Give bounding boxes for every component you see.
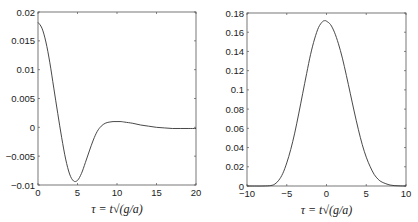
y-tick-label: 0 [239,181,244,192]
x-tick-label: 20 [191,187,202,198]
y-tick-label: 0.1 [231,84,244,95]
y-tick-label: 0.015 [11,35,35,46]
x-tick-label: 10 [112,187,123,198]
x-tick-label: 0 [324,188,329,199]
x-axis-label: τ = t√(g/a) [91,202,143,216]
axes-box [38,12,196,185]
y-tick-label: 0 [30,122,35,133]
y-tick-label: 0.08 [226,104,245,115]
figure: 05101520−0.01−0.00500.0050.010.0150.02τ … [0,0,418,222]
y-tick-label: −0.01 [11,180,35,191]
y-tick-label: 0.02 [17,7,36,18]
series-line-right-curve [247,21,406,186]
y-tick-label: 0.18 [226,8,245,19]
y-tick-label: −0.005 [6,151,35,162]
y-tick-label: 0.14 [226,46,245,57]
axes-box [247,13,406,186]
x-tick-label: 0 [35,187,40,198]
x-tick-label: 10 [401,188,412,199]
x-tick-label: 5 [364,188,369,199]
y-tick-label: 0.12 [226,65,245,76]
y-tick-label: 0.02 [226,161,245,172]
y-tick-label: 0.06 [226,123,245,134]
right-panel: −10−5051000.020.040.060.080.10.120.140.1… [226,8,412,218]
x-tick-label: 15 [151,187,162,198]
x-tick-label: 5 [75,187,80,198]
series-line-left-curve [38,22,196,181]
x-tick-label: −5 [281,188,292,199]
y-tick-label: 0.04 [226,142,245,153]
y-tick-label: 0.01 [17,64,36,75]
y-tick-label: 0.005 [11,93,35,104]
x-axis-label: τ = t√(g/a) [301,203,353,217]
y-tick-label: 0.16 [226,27,245,38]
left-panel: 05101520−0.01−0.00500.0050.010.0150.02τ … [6,7,202,217]
